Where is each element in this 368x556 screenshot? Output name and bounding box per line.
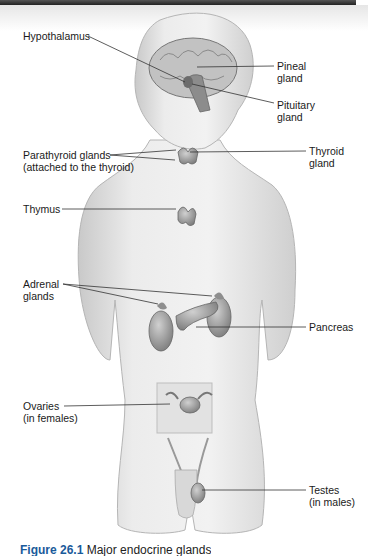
label-pituitary-gland: Pituitary gland [277, 99, 315, 123]
label-text: (in males) [309, 496, 355, 508]
uterus [180, 397, 200, 413]
label-adrenal-glands: Adrenal glands [23, 278, 59, 302]
label-text: Pituitary [277, 99, 315, 111]
label-ovaries: Ovaries (in females) [23, 400, 78, 424]
label-text: Thymus [23, 203, 60, 215]
label-text: Parathyroid glands [23, 149, 134, 161]
label-text: (attached to the thyroid) [23, 161, 134, 173]
label-pineal-gland: Pineal gland [277, 60, 306, 84]
label-text: glands [23, 290, 59, 302]
label-thyroid-gland: Thyroid gland [309, 145, 344, 169]
testis [191, 483, 205, 503]
label-text: Adrenal [23, 278, 59, 290]
label-pancreas: Pancreas [309, 321, 353, 333]
label-testes: Testes (in males) [309, 484, 355, 508]
kidney-right [149, 311, 173, 351]
label-thymus: Thymus [23, 203, 60, 215]
label-text: Hypothalamus [23, 30, 90, 42]
label-parathyroid-glands: Parathyroid glands (attached to the thyr… [23, 149, 134, 173]
thymus [178, 207, 196, 226]
label-text: Pineal [277, 60, 306, 72]
label-text: gland [309, 157, 344, 169]
figure-number: Figure 26.1 [20, 543, 83, 556]
label-text: gland [277, 72, 306, 84]
label-text: (in females) [23, 412, 78, 424]
label-text: Testes [309, 484, 355, 496]
label-text: gland [277, 111, 315, 123]
figure-caption-text: Major endocrine glands [87, 543, 212, 556]
figure-caption: Figure 26.1 Major endocrine glands [20, 543, 211, 556]
label-hypothalamus: Hypothalamus [23, 30, 90, 42]
label-text: Pancreas [309, 321, 353, 333]
label-text: Ovaries [23, 400, 78, 412]
label-text: Thyroid [309, 145, 344, 157]
